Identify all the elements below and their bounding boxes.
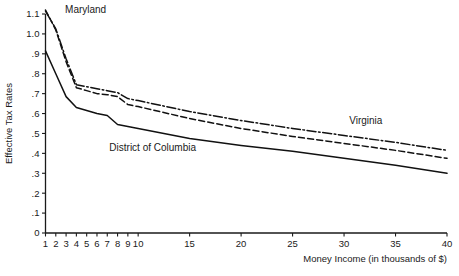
y-tick-label: .1: [32, 207, 40, 218]
x-tick-label: 7: [105, 238, 110, 249]
y-axis-title: Effective Tax Rates: [3, 83, 14, 164]
series-label-district-of-columbia: District of Columbia: [109, 142, 196, 153]
x-tick-label: 30: [339, 238, 350, 249]
x-tick-label: 35: [390, 238, 401, 249]
x-tick-label: 3: [63, 238, 68, 249]
x-tick-label: 20: [236, 238, 247, 249]
x-tick-label: 6: [94, 238, 99, 249]
y-tick-label: 1.0: [26, 28, 39, 39]
x-tick-label: 2: [53, 238, 58, 249]
x-axis-title: Money Income (in thousands of $): [303, 253, 447, 264]
y-tick-label: .6: [32, 108, 40, 119]
x-tick-label: 4: [74, 238, 79, 249]
y-tick-label: .5: [32, 128, 40, 139]
chart-figure: 0.1.2.3.4.5.6.7.8.91.01.1123456789101520…: [0, 0, 459, 276]
series-label-virginia: Virginia: [349, 115, 383, 126]
x-tick-label: 5: [84, 238, 89, 249]
x-tick-label: 9: [125, 238, 130, 249]
y-tick-label: .7: [32, 88, 40, 99]
series-line-maryland: [46, 10, 448, 158]
series-label-maryland: Maryland: [65, 4, 106, 15]
y-tick-label: 0: [34, 227, 39, 238]
effective-tax-rates-line-chart: 0.1.2.3.4.5.6.7.8.91.01.1123456789101520…: [0, 0, 459, 276]
x-tick-label: 25: [287, 238, 298, 249]
x-tick-label: 10: [133, 238, 144, 249]
x-tick-label: 15: [184, 238, 195, 249]
y-tick-label: .4: [32, 148, 40, 159]
y-tick-label: .8: [32, 68, 40, 79]
y-tick-label: 1.1: [26, 8, 39, 19]
y-tick-label: .2: [32, 188, 40, 199]
y-tick-label: .9: [32, 48, 40, 59]
x-tick-label: 8: [115, 238, 120, 249]
x-tick-label: 1: [43, 238, 48, 249]
x-tick-label: 40: [442, 238, 453, 249]
y-tick-label: .3: [32, 168, 40, 179]
series-line-district-of-columbia: [46, 51, 448, 173]
